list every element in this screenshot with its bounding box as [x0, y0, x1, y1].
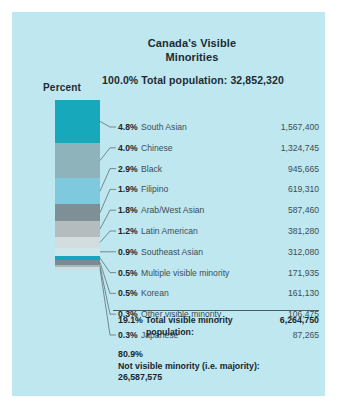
row-percent: 1.9% [118, 184, 138, 194]
table-row: 1.8%Arab/West Asian587,460 [118, 205, 319, 219]
table-row: 0.5%Multiple visible minority171,935 [118, 268, 319, 282]
row-percent: 1.2% [118, 226, 138, 236]
row-percent: 2.9% [118, 164, 138, 174]
majority-value: 26,587,575 [118, 372, 260, 384]
majority-percent: 80.9% [118, 349, 260, 361]
row-label: Arab/West Asian [141, 205, 204, 215]
row-label: Black [141, 164, 162, 174]
row-value: 587,460 [288, 205, 319, 215]
row-percent: 0.5% [118, 268, 138, 278]
table-row: 0.9%Southeast Asian312,080 [118, 247, 319, 261]
row-percent: 0.5% [118, 288, 138, 298]
total-row-label: 19.1% Total visible minority population: [118, 315, 248, 338]
row-value: 161,130 [288, 288, 319, 298]
row-value: 1,567,400 [281, 122, 319, 132]
row-label: Southeast Asian [141, 247, 203, 257]
row-percent: 0.9% [118, 247, 138, 257]
majority-label: Not visible minority (i.e. majority): [118, 361, 260, 373]
row-label: Chinese [141, 143, 173, 153]
row-label: Filipino [141, 184, 168, 194]
table-row: 4.8%South Asian1,567,400 [118, 122, 319, 136]
total-divider [113, 310, 319, 311]
row-percent: 4.8% [118, 122, 138, 132]
total-row-value: 6,264,750 [280, 315, 319, 325]
table-row: 1.9%Filipino619,310 [118, 184, 319, 198]
row-label: Korean [141, 288, 169, 298]
infographic-poster: Canada's Visible Minorities 100.0% Total… [12, 12, 325, 396]
row-percent: 1.8% [118, 205, 138, 215]
total-row: 19.1% Total visible minority population:… [118, 315, 319, 341]
row-value: 312,080 [288, 247, 319, 257]
row-value: 381,280 [288, 226, 319, 236]
total-row-percent: 19.1% [118, 315, 143, 325]
row-value: 171,935 [288, 268, 319, 278]
total-row-label-line-2: population: [118, 327, 248, 339]
row-value: 1,324,745 [281, 143, 319, 153]
row-label: Multiple visible minority [141, 268, 229, 278]
total-row-label-line-1: Total visible minority [145, 315, 232, 325]
row-value: 945,665 [288, 164, 319, 174]
majority-footer: 80.9% Not visible minority (i.e. majorit… [118, 349, 260, 384]
row-percent: 4.0% [118, 143, 138, 153]
row-label: South Asian [141, 122, 187, 132]
table-row: 0.5%Korean161,130 [118, 288, 319, 302]
table-row: 4.0%Chinese1,324,745 [118, 143, 319, 157]
table-row: 2.9%Black945,665 [118, 164, 319, 178]
row-value: 619,310 [288, 184, 319, 194]
row-label: Latin American [141, 226, 198, 236]
table-row: 1.2%Latin American381,280 [118, 226, 319, 240]
